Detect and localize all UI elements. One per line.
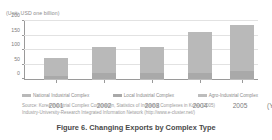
bar-2004-national	[188, 32, 212, 73]
xtick-mark-2001	[56, 80, 57, 83]
legend-swatch-icon-local	[113, 94, 122, 98]
bar-2001-national	[44, 58, 68, 76]
xtick-mark-2004	[200, 80, 201, 83]
x-axis-title: (Year)	[267, 102, 272, 109]
legend-item-local[interactable]: Local Industrial Complex	[113, 93, 174, 98]
xtick-mark-2005	[242, 80, 243, 83]
figure-caption: Figure 6. Changing Exports by Complex Ty…	[0, 123, 272, 132]
ytick-label-150: 150	[11, 27, 20, 33]
legend-item-agro[interactable]: Agro-Industrial Complex	[198, 93, 258, 98]
source-note: Source: Korea Industrial Complex Corpora…	[22, 103, 260, 116]
ytick-label-200: 200	[11, 12, 20, 18]
bar-2004[interactable]	[188, 32, 212, 79]
figure-container: (Unit: USD one billion) 200 150 100 50 0	[0, 0, 272, 140]
chart-legend: National Industrial Complex Local Indust…	[22, 93, 258, 98]
legend-item-national[interactable]: National Industrial Complex	[22, 93, 89, 98]
plot-area: 200 150 100 50 0	[24, 20, 258, 80]
xtick-mark-2003	[152, 80, 153, 83]
legend-label-local: Local Industrial Complex	[124, 93, 174, 98]
ytick-label-100: 100	[11, 41, 20, 47]
bar-series-group	[24, 20, 258, 80]
legend-swatch-icon-agro	[198, 94, 207, 98]
bar-2001[interactable]	[44, 58, 68, 79]
bar-2003-national	[140, 47, 164, 73]
bar-2002[interactable]	[92, 47, 116, 79]
ytick-label-0: 0	[17, 70, 20, 76]
bar-2005[interactable]	[230, 25, 254, 79]
bar-2005-national	[230, 25, 254, 71]
legend-label-national: National Industrial Complex	[33, 93, 89, 98]
bar-2002-national	[92, 47, 116, 73]
legend-swatch-icon-national	[22, 94, 31, 98]
ytick-label-50: 50	[14, 56, 20, 62]
bar-2005-local	[230, 71, 254, 79]
bar-2003[interactable]	[140, 47, 164, 79]
source-line-2: Industry-University-Research Integrated …	[22, 110, 260, 117]
xtick-mark-2002	[104, 80, 105, 83]
legend-label-agro: Agro-Industrial Complex	[209, 93, 258, 98]
